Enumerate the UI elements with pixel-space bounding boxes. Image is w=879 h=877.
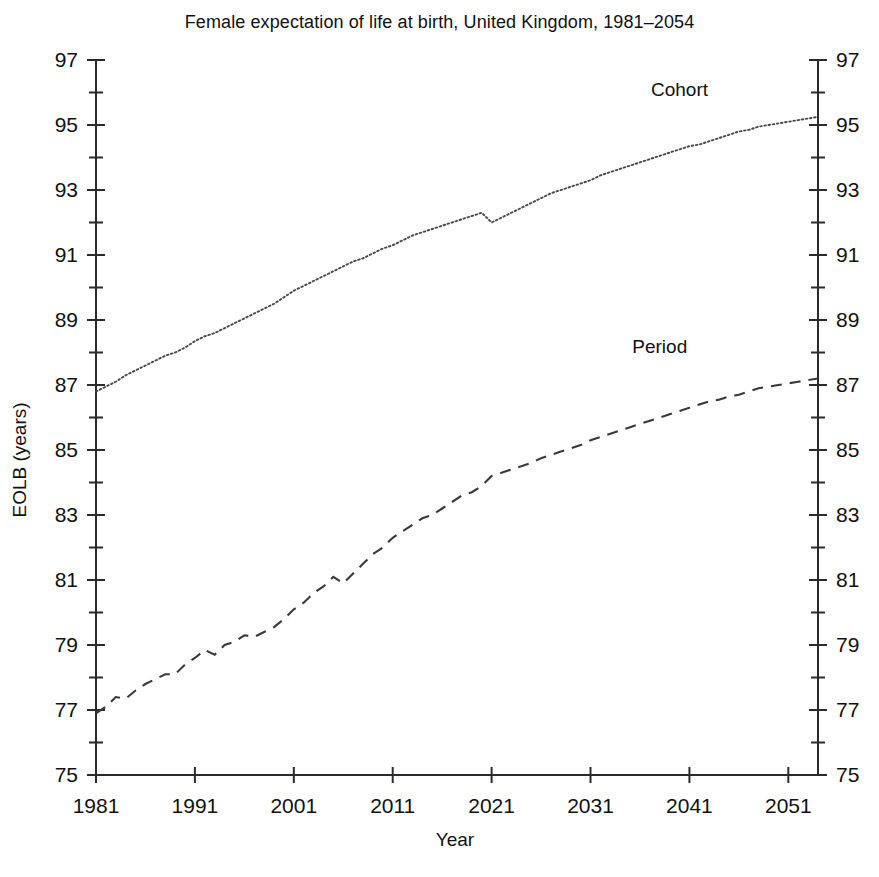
- y-tick-label-right: 83: [836, 503, 859, 526]
- series-line-cohort: [96, 117, 818, 392]
- y-tick-label-right: 85: [836, 438, 859, 461]
- x-tick-label: 2021: [468, 794, 515, 817]
- y-axis-left-tick-labels: 979593918987858381797775: [55, 48, 78, 786]
- x-tick-label: 2001: [270, 794, 317, 817]
- y-tick-label-right: 95: [836, 113, 859, 136]
- y-tick-label-left: 87: [55, 373, 78, 396]
- x-tick-label: 2051: [765, 794, 812, 817]
- chart-container: Female expectation of life at birth, Uni…: [0, 0, 879, 877]
- series-line-period: [96, 379, 818, 714]
- y-tick-label-right: 75: [836, 763, 859, 786]
- series-inline-labels: CohortPeriod: [632, 79, 708, 357]
- y-tick-label-left: 93: [55, 178, 78, 201]
- y-tick-label-left: 89: [55, 308, 78, 331]
- x-tick-label: 1991: [172, 794, 219, 817]
- y-tick-label-right: 81: [836, 568, 859, 591]
- y-tick-label-right: 91: [836, 243, 859, 266]
- y-tick-label-left: 75: [55, 763, 78, 786]
- x-axis-tick-labels: 19811991200120112021203120412051: [73, 794, 812, 817]
- y-tick-label-left: 77: [55, 698, 78, 721]
- x-tick-label: 1981: [73, 794, 120, 817]
- x-axis-title: Year: [436, 829, 475, 850]
- x-tick-label: 2011: [370, 794, 415, 817]
- y-tick-label-right: 79: [836, 633, 859, 656]
- y-tick-label-left: 91: [55, 243, 78, 266]
- y-tick-label-right: 87: [836, 373, 859, 396]
- y-tick-label-left: 83: [55, 503, 78, 526]
- y-tick-label-left: 85: [55, 438, 78, 461]
- y-axis-right-tick-labels: 979593918987858381797775: [836, 48, 859, 786]
- y-tick-label-right: 77: [836, 698, 859, 721]
- x-tick-label: 2041: [666, 794, 713, 817]
- series-label-period: Period: [632, 336, 687, 357]
- series-label-cohort: Cohort: [651, 79, 709, 100]
- line-chart-plot: 979593918987858381797775 979593918987858…: [0, 0, 879, 877]
- y-axis-title: EOLB (years): [9, 402, 30, 517]
- y-tick-label-left: 95: [55, 113, 78, 136]
- y-tick-label-right: 93: [836, 178, 859, 201]
- y-tick-label-left: 81: [55, 568, 78, 591]
- y-tick-label-right: 89: [836, 308, 859, 331]
- y-tick-label-right: 97: [836, 48, 859, 71]
- y-tick-label-left: 97: [55, 48, 78, 71]
- x-tick-label: 2031: [567, 794, 614, 817]
- y-tick-label-left: 79: [55, 633, 78, 656]
